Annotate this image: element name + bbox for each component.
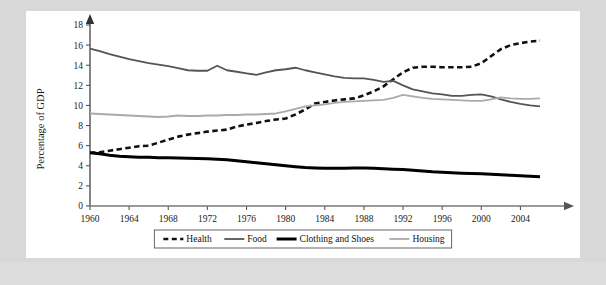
y-tick-label: 8 (78, 121, 83, 131)
y-tick-label: 18 (74, 20, 84, 30)
x-tick-label: 1996 (433, 214, 452, 224)
x-axis-ticks: 1960196419681972197619801984198819921996… (81, 206, 531, 224)
chart-legend: HealthFoodClothing and ShoesHousing (154, 230, 451, 248)
figure-outer-frame: Percentage of GDP 024681012141618 196019… (0, 0, 606, 285)
y-tick-label: 12 (74, 81, 84, 91)
legend-label-housing: Housing (412, 234, 444, 244)
x-tick-label: 1960 (81, 214, 100, 224)
x-tick-label: 1980 (276, 214, 295, 224)
y-tick-label: 0 (78, 201, 83, 211)
y-tick-label: 6 (78, 141, 83, 151)
y-tick-label: 4 (78, 161, 83, 171)
legend-label-food: Food (247, 234, 267, 244)
line-chart: Percentage of GDP 024681012141618 196019… (26, 11, 580, 258)
series-lines (90, 41, 540, 177)
y-tick-label: 10 (74, 101, 84, 111)
x-tick-label: 2000 (472, 214, 491, 224)
y-tick-label: 16 (74, 41, 84, 51)
x-tick-label: 1968 (159, 214, 178, 224)
y-axis-ticks: 024681012141618 (74, 20, 91, 211)
x-tick-label: 1984 (315, 214, 334, 224)
chart-panel: Percentage of GDP 024681012141618 196019… (26, 11, 580, 258)
x-tick-label: 2004 (511, 214, 530, 224)
y-tick-label: 2 (78, 181, 83, 191)
legend-label-clothing-and-shoes: Clothing and Shoes (300, 234, 375, 244)
x-tick-label: 1964 (120, 214, 139, 224)
legend-label-health: Health (186, 234, 212, 244)
page-bottom-band (0, 262, 606, 285)
y-axis-label: Percentage of GDP (35, 88, 46, 169)
series-line-food (90, 49, 540, 107)
series-line-health (90, 41, 540, 153)
series-line-clothing-and-shoes (90, 153, 540, 177)
chart-axes (86, 14, 574, 210)
series-line-housing (90, 95, 540, 117)
x-tick-label: 1992 (394, 214, 413, 224)
x-tick-label: 1988 (354, 214, 373, 224)
y-tick-label: 14 (74, 61, 84, 71)
x-tick-label: 1972 (198, 214, 217, 224)
x-tick-label: 1976 (237, 214, 256, 224)
